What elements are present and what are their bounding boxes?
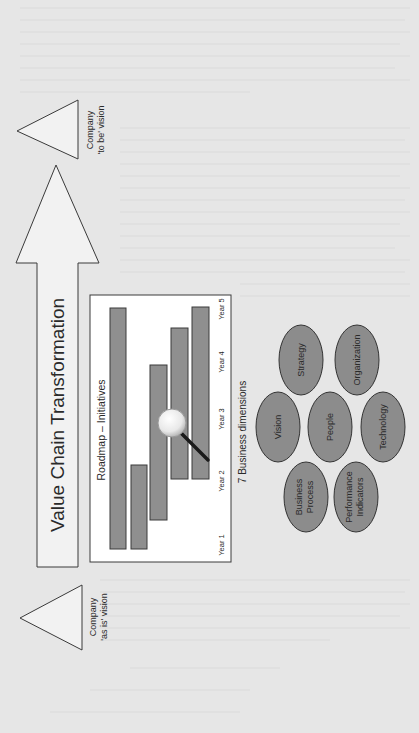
dimension-label: Indicators bbox=[355, 477, 365, 517]
initiative-bar-1 bbox=[110, 308, 126, 549]
transformation-arrow: Value Chain Transformation bbox=[16, 165, 99, 567]
dimension-technology: Technology bbox=[361, 392, 405, 462]
dimension-label: Vision bbox=[273, 415, 283, 439]
as-is-triangle-shape bbox=[20, 585, 82, 650]
dimension-performance-indicators: Performance Indicators bbox=[334, 462, 378, 532]
value-chain-diagram: Company 'to be' vision Value Chain Trans… bbox=[0, 0, 419, 733]
dimension-people: People bbox=[308, 392, 352, 462]
to-be-label-line1: Company bbox=[85, 110, 95, 149]
initiative-bar-2 bbox=[131, 465, 147, 549]
to-be-triangle-shape bbox=[17, 100, 78, 159]
year-label-1: Year 1 bbox=[217, 534, 226, 555]
as-is-label-line2: 'as is' vision bbox=[99, 593, 109, 640]
as-is-label-line1: Company bbox=[88, 597, 98, 636]
business-dimensions: 7 Business dimensions Strategy Organizat… bbox=[237, 325, 405, 532]
dimension-label: Performance bbox=[344, 471, 354, 523]
dimension-label: People bbox=[325, 413, 335, 441]
dimension-label: Process bbox=[305, 480, 315, 513]
to-be-vision: Company 'to be' vision bbox=[17, 100, 106, 159]
initiative-bar-3 bbox=[150, 365, 167, 520]
roadmap-chart: Roadmap – Initiatives Year 1 Year 2 Year… bbox=[90, 295, 231, 562]
arrow-title: Value Chain Transformation bbox=[47, 298, 68, 532]
year-label-4: Year 4 bbox=[217, 351, 226, 372]
dimension-label: Business bbox=[294, 478, 304, 515]
to-be-label-line2: 'to be' vision bbox=[96, 106, 106, 155]
roadmap-title: Roadmap – Initiatives bbox=[95, 380, 107, 481]
dimension-vision: Vision bbox=[256, 392, 300, 462]
dimension-organization: Organization bbox=[335, 325, 379, 395]
dimensions-title: 7 Business dimensions bbox=[237, 381, 248, 483]
dimension-label: Strategy bbox=[296, 343, 306, 377]
year-label-5: Year 5 bbox=[217, 298, 226, 319]
dimension-label: Technology bbox=[378, 404, 388, 450]
initiative-bar-4 bbox=[171, 328, 188, 479]
as-is-vision: Company 'as is' vision bbox=[20, 585, 109, 650]
year-label-3: Year 3 bbox=[217, 408, 226, 429]
dimension-business-process: Business Process bbox=[284, 462, 328, 532]
dimension-label: Organization bbox=[352, 334, 362, 385]
dimension-strategy: Strategy bbox=[279, 325, 323, 395]
year-label-2: Year 2 bbox=[217, 470, 226, 491]
